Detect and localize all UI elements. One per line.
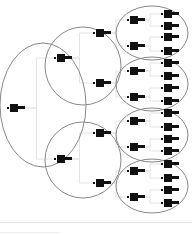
tree-node-icon[interactable]: [127, 67, 145, 75]
tree-node-icon[interactable]: [93, 179, 111, 187]
tree-node-icon[interactable]: [161, 186, 179, 194]
tree-node-icon[interactable]: [93, 79, 111, 87]
tree-node-icon[interactable]: [161, 109, 179, 117]
tree-node-icon[interactable]: [161, 72, 179, 80]
tree-node-icon[interactable]: [93, 29, 111, 37]
tree-node-icon[interactable]: [161, 123, 179, 131]
tree-node-icon[interactable]: [127, 167, 145, 175]
tree-node-icon[interactable]: [161, 10, 179, 18]
tree-diagram: [0, 0, 192, 234]
tree-node-icon[interactable]: [161, 84, 179, 92]
group-ellipse: [45, 27, 121, 105]
tree-node-icon[interactable]: [161, 22, 179, 30]
footer-divider-short: [0, 232, 60, 233]
group-ellipse: [116, 57, 188, 111]
tree-node-icon[interactable]: [127, 193, 145, 201]
tree-node-icon[interactable]: [161, 135, 179, 143]
tree-edge: [65, 33, 94, 58]
tree-edge: [18, 108, 55, 159]
group-ellipse: [116, 159, 188, 213]
tree-edge: [65, 159, 94, 183]
tree-node-icon[interactable]: [127, 93, 145, 101]
tree-edge: [18, 58, 55, 108]
tree-edge: [65, 58, 94, 83]
tree-node-icon[interactable]: [161, 59, 179, 67]
tree-node-icon[interactable]: [54, 155, 72, 163]
tree-node-icon[interactable]: [161, 160, 179, 168]
group-ellipse: [116, 108, 188, 162]
tree-node-icon[interactable]: [161, 33, 179, 41]
tree-node-icon[interactable]: [7, 104, 25, 112]
tree-edges: [18, 14, 162, 203]
footer-divider: [0, 222, 192, 223]
tree-node-icon[interactable]: [161, 174, 179, 182]
tree-node-icon[interactable]: [161, 47, 179, 55]
tree-edge: [138, 171, 162, 178]
tree-node-icon[interactable]: [93, 129, 111, 137]
tree-node-icon[interactable]: [161, 147, 179, 155]
tree-node-icon[interactable]: [127, 16, 145, 24]
tree-node-icon[interactable]: [127, 143, 145, 151]
tree-node-icon[interactable]: [127, 42, 145, 50]
tree-node-icon[interactable]: [127, 117, 145, 125]
